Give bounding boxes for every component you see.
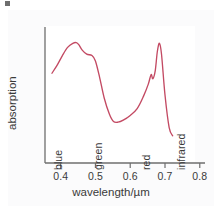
x-axis-tick-label: 0.7: [152, 170, 178, 182]
x-axis-tick-label: 0.6: [117, 170, 143, 182]
absorption-spectrum-figure: 0.40.50.60.70.8 bluegreenredinfrared wav…: [0, 0, 222, 215]
x-axis-tick-label: 0.8: [187, 170, 213, 182]
x-axis-tick-label: 0.5: [82, 170, 108, 182]
band-label-blue: blue: [52, 150, 64, 170]
chart-canvas: [0, 0, 222, 215]
absorption-curve: [52, 43, 173, 136]
y-axis-title: absorption: [6, 76, 18, 130]
band-label-green: green: [92, 143, 104, 170]
x-axis-tick-label: 0.4: [48, 170, 74, 182]
x-axis-title: wavelength/µm: [0, 186, 222, 198]
band-label-infrared: infrared: [175, 134, 187, 170]
band-label-red: red: [140, 155, 152, 170]
